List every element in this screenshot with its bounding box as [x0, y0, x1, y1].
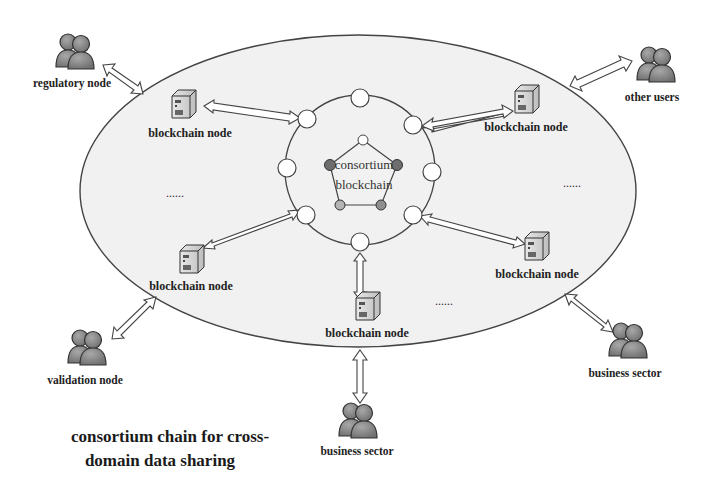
entity-label-business-center: business sector — [320, 445, 393, 457]
blockchain-node-label: blockchain node — [325, 326, 409, 340]
entity-label-regulatory: regulatory node — [33, 77, 111, 90]
blockchain-node-label: blockchain node — [149, 279, 233, 293]
people-icon — [56, 34, 94, 69]
ellipsis-bottom: ...... — [435, 294, 453, 308]
entity-label-other-users: other users — [625, 91, 680, 103]
blockchain-node-label: blockchain node — [495, 267, 579, 281]
consensus-node — [376, 200, 386, 210]
server-icon — [356, 292, 380, 320]
blockchain-node-label: blockchain node — [484, 120, 568, 134]
diagram-title-line1: consortium chain for cross- — [71, 427, 270, 446]
people-icon — [339, 403, 377, 438]
consensus-node — [335, 200, 345, 210]
entity-label-business-right: business sector — [588, 367, 661, 379]
people-icon — [609, 323, 647, 358]
server-icon — [525, 232, 549, 260]
ellipsis-right: ...... — [563, 176, 581, 190]
people-icon — [68, 330, 106, 365]
ellipsis-left: ...... — [166, 186, 184, 200]
center-label-line1: consortium — [335, 157, 394, 172]
server-icon — [180, 245, 204, 273]
diagram-canvas: consortium blockchain blockchain node bl… — [0, 0, 710, 490]
entity-label-validation: validation node — [47, 374, 123, 386]
people-icon — [637, 47, 675, 82]
server-icon — [515, 85, 539, 113]
blockchain-node-label: blockchain node — [148, 126, 232, 140]
center-label-line2: blockchain — [335, 177, 393, 192]
diagram-title-line2: domain data sharing — [85, 451, 236, 470]
consensus-node — [358, 135, 368, 145]
server-icon — [172, 90, 196, 118]
